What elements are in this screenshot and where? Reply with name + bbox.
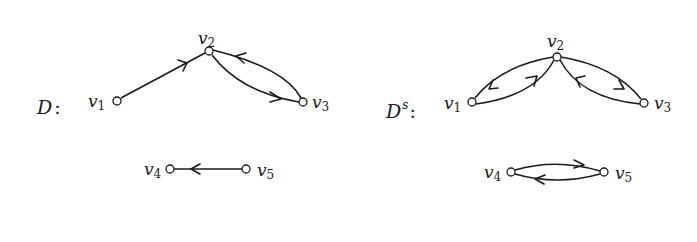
graph-ds-label: Ds: bbox=[385, 98, 416, 122]
arc-v3-v2 bbox=[560, 60, 640, 104]
vertex-label-v4: v4 bbox=[484, 162, 502, 184]
vertex-label-v2: v2 bbox=[547, 31, 564, 53]
vertex-label-v1: v1 bbox=[444, 93, 461, 115]
arc-v1-v2 bbox=[121, 53, 205, 98]
vertex-v2 bbox=[553, 53, 561, 61]
vertex-label-v5: v5 bbox=[615, 163, 632, 185]
vertex-v4 bbox=[507, 168, 515, 176]
graph-d: D: v1 v2 v3 v4 v5 bbox=[36, 28, 329, 182]
arrowhead-icon bbox=[489, 80, 498, 89]
vertex-label-v2: v2 bbox=[198, 28, 215, 50]
arc-v2-v3 bbox=[212, 55, 299, 102]
digraph-figure: D: v1 v2 v3 v4 v5 Ds: bbox=[0, 0, 697, 242]
vertex-v5 bbox=[242, 165, 250, 173]
vertex-label-v5: v5 bbox=[257, 160, 274, 182]
vertex-label-v1: v1 bbox=[88, 91, 105, 113]
vertex-v1 bbox=[468, 98, 476, 106]
arc-v1-v2 bbox=[476, 60, 554, 104]
arc-v5-v4 bbox=[515, 174, 600, 180]
graph-ds: Ds: v1 v2 v3 v4 v5 bbox=[385, 31, 671, 185]
vertex-label-v4: v4 bbox=[144, 159, 162, 181]
graph-d-label: D: bbox=[36, 96, 61, 118]
vertex-v3 bbox=[299, 98, 307, 106]
vertex-v4 bbox=[166, 165, 174, 173]
vertex-v5 bbox=[600, 168, 608, 176]
vertex-label-v3: v3 bbox=[312, 92, 329, 114]
vertex-v1 bbox=[113, 97, 121, 105]
arc-v3-v2 bbox=[213, 50, 301, 98]
vertex-label-v3: v3 bbox=[654, 93, 671, 115]
vertex-v3 bbox=[640, 99, 648, 107]
arc-v4-v5 bbox=[515, 164, 600, 171]
